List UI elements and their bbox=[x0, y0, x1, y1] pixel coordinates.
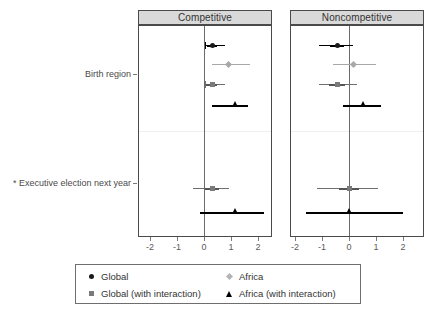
xticklabel-competitive-3: 1 bbox=[221, 242, 241, 252]
panel-header-competitive: Competitive bbox=[138, 10, 272, 25]
legend-label-africa-interaction: Africa (with interaction) bbox=[239, 288, 336, 299]
circle-icon bbox=[86, 272, 96, 282]
xtick-noncompetitive-0 bbox=[295, 237, 296, 241]
ytick-executive-election bbox=[133, 183, 137, 184]
ci-line-africa-int-competitive-birth bbox=[212, 105, 248, 107]
ci-cap-left-global-int-competitive-birth bbox=[205, 81, 206, 88]
legend-label-africa: Africa bbox=[239, 271, 263, 282]
ytick-birth-region bbox=[133, 74, 137, 75]
triangle-icon bbox=[224, 289, 234, 299]
panel-header-noncompetitive-label: Noncompetitive bbox=[322, 12, 392, 23]
xtick-noncompetitive-2 bbox=[349, 237, 350, 241]
xticklabel-noncompetitive-3: 1 bbox=[366, 242, 386, 252]
xtick-noncompetitive-1 bbox=[322, 237, 323, 241]
diamond-icon bbox=[224, 272, 234, 282]
marker-africa-int-noncompetitive-birth bbox=[360, 101, 366, 107]
xtick-competitive-2 bbox=[204, 237, 205, 241]
ci-cap-left-global-competitive-birth bbox=[205, 42, 206, 49]
xticklabel-noncompetitive-4: 2 bbox=[393, 242, 413, 252]
forest-plot-figure: Competitive Noncompetitive bbox=[0, 0, 437, 316]
legend-label-global-interaction: Global (with interaction) bbox=[101, 288, 201, 299]
xtick-competitive-1 bbox=[177, 237, 178, 241]
marker-global-noncompetitive-birth bbox=[335, 43, 340, 48]
zero-reference-line bbox=[204, 26, 205, 236]
marker-global-int-noncompetitive-birth bbox=[335, 82, 340, 87]
group-separator bbox=[139, 131, 271, 132]
marker-africa-int-noncompetitive-exec bbox=[346, 208, 352, 214]
marker-global-competitive-birth bbox=[210, 43, 215, 48]
legend-item-africa-interaction: Africa (with interaction) bbox=[224, 288, 336, 299]
legend-item-africa: Africa bbox=[224, 271, 263, 282]
marker-africa-int-competitive-birth bbox=[232, 101, 238, 107]
legend-item-global-interaction: Global (with interaction) bbox=[86, 288, 201, 299]
zero-reference-line bbox=[349, 26, 350, 236]
legend: Global Africa Global (with interaction) … bbox=[75, 264, 361, 304]
xtick-noncompetitive-3 bbox=[376, 237, 377, 241]
ci-line-africa-int-noncompetitive-exec bbox=[306, 212, 403, 214]
ylabel-birth-region: Birth region bbox=[0, 69, 131, 79]
plot-area-competitive bbox=[138, 25, 272, 237]
xtick-competitive-4 bbox=[258, 237, 259, 241]
xticklabel-noncompetitive-2: 0 bbox=[339, 242, 359, 252]
legend-label-global: Global bbox=[101, 271, 128, 282]
marker-africa-noncompetitive-birth bbox=[350, 61, 357, 68]
xticklabel-competitive-2: 0 bbox=[194, 242, 214, 252]
marker-africa-competitive-birth bbox=[225, 61, 232, 68]
group-separator bbox=[291, 131, 423, 132]
square-icon bbox=[86, 289, 96, 299]
xticklabel-noncompetitive-0: -2 bbox=[285, 242, 305, 252]
xtick-competitive-0 bbox=[150, 237, 151, 241]
plot-area-noncompetitive bbox=[290, 25, 424, 237]
xticklabel-competitive-1: -1 bbox=[167, 242, 187, 252]
marker-global-int-competitive-exec bbox=[210, 186, 215, 191]
ylabel-executive-election: * Executive election next year bbox=[0, 178, 131, 188]
xticklabel-competitive-0: -2 bbox=[140, 242, 160, 252]
xticklabel-competitive-4: 2 bbox=[248, 242, 268, 252]
xtick-noncompetitive-4 bbox=[403, 237, 404, 241]
legend-item-global: Global bbox=[86, 271, 128, 282]
marker-global-int-noncompetitive-exec bbox=[347, 186, 352, 191]
xticklabel-noncompetitive-1: -1 bbox=[312, 242, 332, 252]
marker-africa-int-competitive-exec bbox=[232, 208, 238, 214]
xtick-competitive-3 bbox=[231, 237, 232, 241]
panel-header-competitive-label: Competitive bbox=[178, 12, 232, 23]
panel-header-noncompetitive: Noncompetitive bbox=[290, 10, 424, 25]
marker-global-int-competitive-birth bbox=[210, 82, 215, 87]
